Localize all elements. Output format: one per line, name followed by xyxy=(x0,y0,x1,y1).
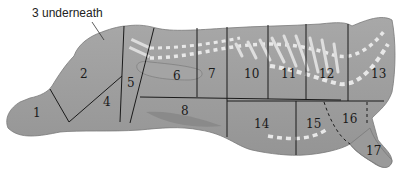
cut-label-13: 13 xyxy=(371,67,386,81)
cut-label-15: 15 xyxy=(306,117,321,131)
callout-3-underneath: 3 underneath xyxy=(32,6,103,20)
cut-label-6: 6 xyxy=(173,69,181,83)
cut-label-12: 12 xyxy=(319,67,334,81)
cut-label-7: 7 xyxy=(208,67,216,81)
carcass-body xyxy=(7,18,395,168)
cut-label-10: 10 xyxy=(244,67,259,81)
cut-label-11: 11 xyxy=(281,67,296,81)
beef-cuts-diagram: 3 underneath 1 2 4 5 6 7 8 10 11 12 13 1… xyxy=(0,0,405,177)
cut-label-4: 4 xyxy=(103,95,111,109)
cut-label-8: 8 xyxy=(181,104,189,118)
carcass-svg: 3 underneath 1 2 4 5 6 7 8 10 11 12 13 1… xyxy=(0,0,405,177)
cut-label-2: 2 xyxy=(80,67,88,81)
cut-label-17: 17 xyxy=(366,144,381,158)
cut-label-16: 16 xyxy=(342,112,357,126)
cut-label-5: 5 xyxy=(127,76,135,90)
cut-label-1: 1 xyxy=(33,106,41,120)
cut-label-14: 14 xyxy=(254,117,270,131)
